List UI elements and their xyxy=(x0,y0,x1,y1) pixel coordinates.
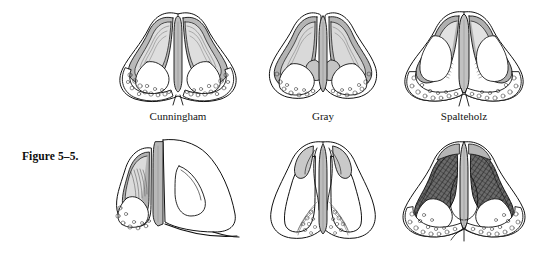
panel-caption-cunningham: Cunningham xyxy=(103,110,253,122)
figure-number-label: Figure 5–5. xyxy=(22,150,78,162)
anatomy-illustration-sobotta xyxy=(103,136,253,242)
anatomy-illustration-lockhart-hamilton-fyfe xyxy=(391,136,537,242)
anatomy-illustration-cunningham xyxy=(103,2,253,108)
panel-grid: Cunningham xyxy=(103,0,537,279)
anatomy-illustration-toldt xyxy=(253,136,393,242)
figure-container: Figure 5–5. xyxy=(0,0,537,279)
panel-caption-spalteholz: Spalteholz xyxy=(391,110,537,122)
panel-caption-gray: Gray xyxy=(253,110,393,122)
anatomy-illustration-spalteholz xyxy=(391,2,537,108)
anatomy-illustration-gray xyxy=(253,2,393,108)
